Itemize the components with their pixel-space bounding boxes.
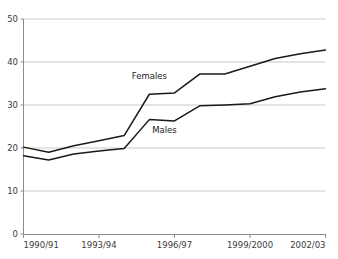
y-tick-label-20: 20	[7, 143, 18, 153]
x-tick-label-1: 1993/94	[81, 240, 116, 250]
x-tick-label-2: 1996/97	[157, 240, 192, 250]
x-tick-label-4: 2002/03	[290, 240, 325, 250]
series-annotation-males: Males	[152, 125, 177, 135]
chart-canvas: 01020304050 1990/911993/941996/971999/20…	[0, 0, 338, 259]
y-tick-label-0: 0	[13, 229, 18, 239]
y-tick-label-30: 30	[7, 100, 18, 110]
y-tick-label-50: 50	[7, 14, 18, 24]
series-annotation-females: Females	[132, 71, 168, 81]
y-tick-label-10: 10	[7, 186, 18, 196]
y-tick-label-40: 40	[7, 57, 18, 67]
x-tick-label-3: 1999/2000	[227, 240, 273, 250]
x-tick-label-0: 1990/91	[24, 240, 59, 250]
line-chart: 01020304050 1990/911993/941996/971999/20…	[0, 0, 338, 259]
